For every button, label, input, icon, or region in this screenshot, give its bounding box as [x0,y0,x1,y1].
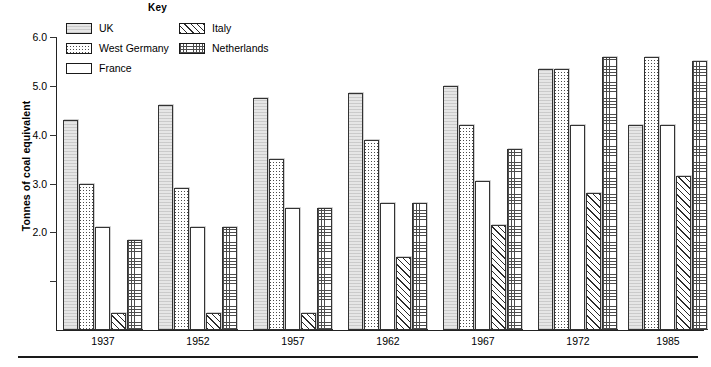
bar-france-1937 [95,227,110,330]
y-tick-5.0 [50,86,57,87]
bar-group-1957: 1957 [253,37,332,330]
bar-west-germany-1952 [174,188,189,330]
bar-west-germany-1937 [79,184,94,331]
bar-west-germany-1957 [269,159,284,330]
bar-uk-1967 [443,86,458,330]
bar-uk-1937 [63,120,78,330]
bar-uk-1972 [538,69,553,330]
bar-italy-1967 [491,225,506,330]
bar-italy-1952 [206,313,221,330]
bar-netherlands-1952 [222,227,237,330]
x-axis-label-1967: 1967 [438,335,528,347]
bar-france-1957 [285,208,300,330]
y-tick-3.0 [50,184,57,185]
footer-divider [18,356,698,358]
bar-france-1952 [190,227,205,330]
bar-france-1967 [475,181,490,330]
bar-west-germany-1972 [554,69,569,330]
x-axis-label-1962: 1962 [343,335,433,347]
bar-uk-1952 [158,105,173,330]
bar-group-1967: 1967 [443,37,522,330]
bar-italy-1962 [396,257,411,330]
chart-figure: Key UK West Germany France Italy Netherl… [0,0,711,367]
bar-france-1972 [570,125,585,330]
bar-netherlands-1967 [507,149,522,330]
y-tick-4.0 [50,135,57,136]
y-tick-1 [50,281,57,282]
bar-group-1952: 1952 [158,37,237,330]
bar-group-1972: 1972 [538,37,617,330]
bar-netherlands-1985 [692,61,707,330]
bar-italy-1937 [111,313,126,330]
bar-netherlands-1962 [412,203,427,330]
plot-area: 6.05.04.03.02.0 Tonnes of coal equivalen… [0,0,711,367]
bar-west-germany-1967 [459,125,474,330]
bar-netherlands-1957 [317,208,332,330]
bar-west-germany-1962 [364,140,379,330]
y-tick-2.0 [50,232,57,233]
y-tick-label-6.0: 6.0 [21,31,47,43]
bar-italy-1985 [676,176,691,330]
bar-group-1962: 1962 [348,37,427,330]
bar-group-1937: 1937 [63,37,142,330]
y-axis-title: Tonnes of coal equivalent [20,66,32,266]
x-axis-label-1952: 1952 [153,335,243,347]
x-axis-label-1957: 1957 [248,335,338,347]
bar-uk-1957 [253,98,268,330]
bar-france-1985 [660,125,675,330]
y-tick-label-wrap: 6.0 [19,37,47,49]
bar-netherlands-1972 [602,57,617,330]
y-tick-6.0 [50,37,57,38]
x-axis-label-1972: 1972 [533,335,623,347]
bar-uk-1985 [628,125,643,330]
bar-uk-1962 [348,93,363,330]
bar-italy-1957 [301,313,316,330]
x-axis-label-1937: 1937 [58,335,148,347]
bar-group-1985: 1985 [628,37,707,330]
bar-west-germany-1985 [644,57,659,330]
bar-france-1962 [380,203,395,330]
x-axis-label-1985: 1985 [623,335,711,347]
x-axis-line [56,330,704,331]
bar-italy-1972 [586,193,601,330]
bar-netherlands-1937 [127,240,142,330]
